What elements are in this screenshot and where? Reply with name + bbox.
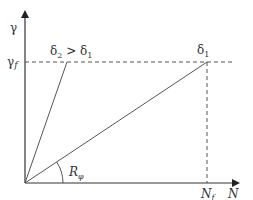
angle-arc xyxy=(57,162,63,183)
y-axis-label: γ xyxy=(10,21,17,35)
delta1-label: δ1 xyxy=(197,43,209,59)
x-axis-label: N xyxy=(227,187,239,200)
angle-label: Rφ xyxy=(68,165,84,181)
gamma-f-label: γf xyxy=(7,55,19,70)
delta1-line xyxy=(25,62,207,183)
n-f-label: Nf xyxy=(200,187,217,200)
delta2-line xyxy=(25,62,67,183)
delta-relation-label: δ2 > δ1 xyxy=(50,44,92,60)
gamma-n-diagram: γ γf δ2 > δ1 δ1 Rφ Nf N xyxy=(0,0,253,200)
